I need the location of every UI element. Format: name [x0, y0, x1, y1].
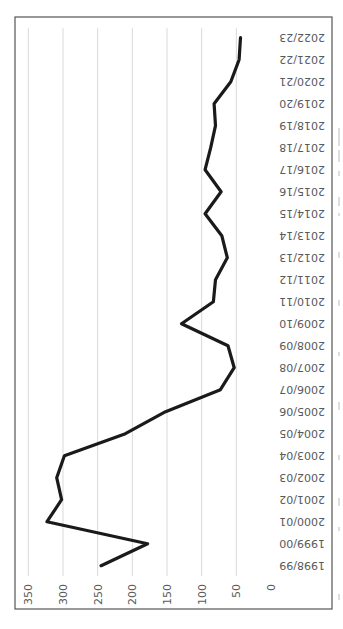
category-label: 2010/11	[279, 295, 325, 308]
category-label: 2000/01	[279, 515, 325, 528]
category-label: 2019/20	[279, 97, 325, 110]
y-tick-label: 150	[161, 584, 174, 605]
y-tick-label: 0	[265, 584, 278, 591]
category-label: 2005/06	[279, 405, 325, 418]
category-label: 2016/17	[279, 163, 325, 176]
category-label: 2018/19	[279, 119, 325, 132]
category-label: 2015/16	[279, 185, 325, 198]
category-label: 2014/15	[279, 207, 325, 220]
category-label: 1999/00	[279, 537, 325, 550]
y-tick-label: 200	[126, 584, 139, 605]
line-chart: 050100150200250300350 1998/991999/002000…	[0, 0, 343, 629]
category-label: 2003/04	[279, 449, 325, 462]
y-tick-label: 300	[57, 584, 70, 605]
category-label: 2009/10	[279, 317, 325, 330]
category-label: 2017/18	[279, 141, 325, 154]
y-tick-label: 350	[22, 584, 35, 605]
category-label: 2012/13	[279, 251, 325, 264]
category-label: 2004/05	[279, 427, 325, 440]
category-label: 2011/12	[279, 273, 325, 286]
category-label: 2013/14	[279, 229, 325, 242]
category-label: 2007/08	[279, 361, 325, 374]
category-label: 2021/22	[279, 53, 325, 66]
y-tick-label: 50	[230, 584, 243, 598]
category-label: 1998/99	[279, 559, 325, 572]
y-tick-label: 100	[196, 584, 209, 605]
category-label: 2002/03	[279, 471, 325, 484]
category-label: 2006/07	[279, 383, 325, 396]
category-label: 2008/09	[279, 339, 325, 352]
category-label: 2022/23	[279, 31, 325, 44]
category-label: 2001/02	[279, 493, 325, 506]
y-tick-label: 250	[92, 584, 105, 605]
category-label: 2020/21	[279, 75, 325, 88]
